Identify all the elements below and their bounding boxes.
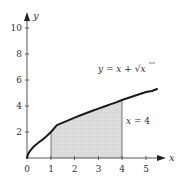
chart: 0 1 2 3 4 5 2 4 6 8 10 x y y = x + √x x … — [0, 0, 177, 187]
x-tick-label: 4 — [119, 164, 125, 174]
svg-text:y = x + √x: y = x + √x — [97, 64, 146, 74]
x-tick-label: 5 — [143, 164, 149, 174]
y-axis-arrow-icon — [24, 12, 30, 21]
y-axis-label: y — [32, 10, 39, 21]
x-tick-label: 3 — [96, 164, 102, 174]
shaded-area-texture — [51, 100, 122, 158]
y-tick-label: 8 — [16, 49, 22, 59]
x-axis-label: x — [169, 152, 175, 163]
y-tick-label: 10 — [11, 23, 23, 33]
y-tick-label: 4 — [16, 101, 22, 111]
curve-label: y = x + √x — [97, 63, 155, 74]
x-tick-label: 0 — [24, 164, 30, 174]
x-axis-arrow-icon — [157, 155, 166, 161]
x-tick-label: 1 — [48, 164, 54, 174]
vline-label: x = 4 — [126, 116, 150, 126]
y-tick-label: 6 — [16, 75, 22, 85]
x-tick-label: 2 — [72, 164, 78, 174]
y-tick-label: 2 — [16, 127, 22, 137]
